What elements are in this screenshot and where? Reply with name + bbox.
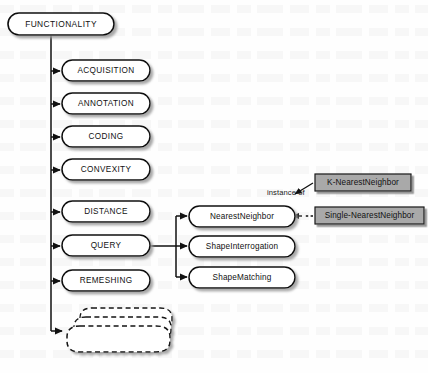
query-child-connectors <box>149 216 187 277</box>
node-coding <box>62 126 150 147</box>
query-children-nodes[interactable] <box>189 206 295 288</box>
node-shape-interrogation <box>189 236 295 257</box>
category-nodes[interactable] <box>62 60 150 291</box>
node-annotation <box>62 93 150 114</box>
diagram-canvas <box>0 0 428 373</box>
taxonomy-diagram: FUNCTIONALITY ACQUISITION ANNOTATION COD… <box>0 0 428 373</box>
node-convexity <box>62 159 150 180</box>
more-categories-stack <box>67 308 172 352</box>
node-remeshing <box>62 270 150 291</box>
instance-nodes[interactable] <box>315 174 424 224</box>
node-k-nearest-neighbor <box>315 174 411 191</box>
trunk-connectors <box>51 34 62 331</box>
node-distance <box>62 201 150 222</box>
node-single-nearest-neighbor <box>315 207 424 224</box>
node-query <box>62 235 150 256</box>
node-acquisition <box>62 60 150 81</box>
node-shape-matching <box>189 267 295 288</box>
node-functionality[interactable] <box>8 13 114 35</box>
k-nearest-neighbor-connector <box>295 183 313 194</box>
node-nearest-neighbor <box>189 206 295 227</box>
